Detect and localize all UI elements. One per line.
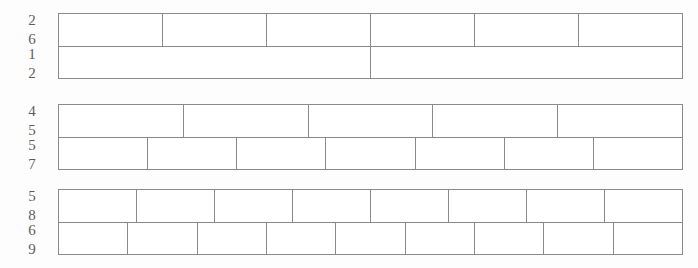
fraction-label-column: 4 5 5 7: [10, 104, 54, 172]
fraction-segment: [267, 223, 336, 254]
fraction-segment: [163, 14, 267, 46]
fraction-segment: [433, 105, 558, 137]
fraction-denominator: 8: [28, 207, 36, 223]
fraction-segment: [148, 138, 237, 169]
fraction-bar-stack: [58, 13, 683, 79]
fraction-segment: [137, 190, 215, 222]
fraction-segment: [371, 14, 475, 46]
fraction-segment: [475, 223, 544, 254]
fraction-denominator: 2: [28, 65, 36, 81]
fraction-numerator: 6: [28, 223, 36, 239]
fraction-numerator: 2: [28, 13, 36, 29]
fraction-bar-stack: [58, 189, 683, 255]
fraction-segment: [59, 14, 163, 46]
fraction-bar-5-8: [58, 189, 683, 222]
fraction-label-5-7: 5 7: [10, 138, 54, 172]
fraction-bar-1-2: [58, 46, 683, 79]
fraction-denominator: 7: [28, 156, 36, 172]
fraction-numerator: 4: [28, 104, 36, 120]
fraction-bar-stack: [58, 104, 683, 170]
fraction-segment: [605, 190, 682, 222]
fraction-segment: [558, 105, 682, 137]
fraction-label-6-9: 6 9: [10, 223, 54, 257]
fraction-segment: [579, 14, 682, 46]
fraction-segment: [416, 138, 505, 169]
fraction-bars-worksheet: 2 6 1 2 4 5 5 7: [0, 0, 698, 268]
fraction-denominator: 9: [28, 241, 36, 257]
fraction-label-5-8: 5 8: [10, 189, 54, 223]
fraction-denominator: 5: [28, 122, 36, 138]
fraction-segment: [475, 14, 579, 46]
fraction-label-1-2: 1 2: [10, 47, 54, 81]
fraction-segment: [184, 105, 309, 137]
fraction-segment: [309, 105, 434, 137]
fraction-segment: [406, 223, 475, 254]
fraction-segment: [237, 138, 326, 169]
fraction-numerator: 1: [28, 47, 36, 63]
fraction-label-column: 5 8 6 9: [10, 189, 54, 257]
fraction-numerator: 5: [28, 138, 36, 154]
fraction-segment: [326, 138, 415, 169]
fraction-label-2-6: 2 6: [10, 13, 54, 47]
fraction-segment: [59, 223, 128, 254]
fraction-label-column: 2 6 1 2: [10, 13, 54, 81]
fraction-denominator: 6: [28, 31, 36, 47]
fraction-segment: [336, 223, 405, 254]
fraction-segment: [371, 47, 682, 78]
fraction-label-4-5: 4 5: [10, 104, 54, 138]
fraction-segment: [59, 105, 184, 137]
fraction-segment: [614, 223, 682, 254]
fraction-segment: [594, 138, 682, 169]
fraction-segment: [267, 14, 371, 46]
fraction-segment: [371, 190, 449, 222]
fraction-bar-5-7: [58, 137, 683, 170]
fraction-segment: [449, 190, 527, 222]
fraction-segment: [59, 47, 371, 78]
fraction-numerator: 5: [28, 189, 36, 205]
fraction-segment: [59, 190, 137, 222]
fraction-segment: [527, 190, 605, 222]
fraction-segment: [59, 138, 148, 169]
fraction-segment: [505, 138, 594, 169]
fraction-bar-6-9: [58, 222, 683, 255]
fraction-bar-4-5: [58, 104, 683, 137]
fraction-segment: [198, 223, 267, 254]
fraction-segment: [293, 190, 371, 222]
fraction-segment: [544, 223, 613, 254]
fraction-segment: [128, 223, 197, 254]
fraction-segment: [215, 190, 293, 222]
fraction-bar-2-6: [58, 13, 683, 46]
